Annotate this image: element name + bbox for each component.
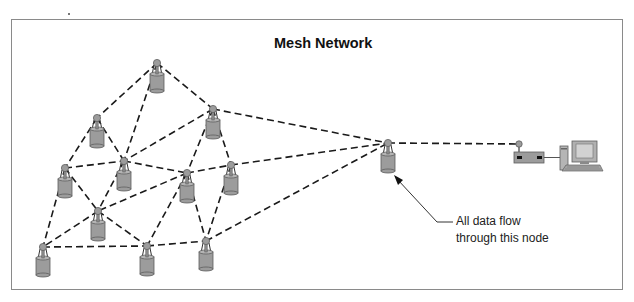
node-hub-icon <box>381 139 395 173</box>
node-n8-icon <box>91 207 105 241</box>
link-n9-n10 <box>43 246 147 247</box>
caption-line-1: All data flow <box>456 213 549 230</box>
link-n3-n5 <box>124 109 213 161</box>
link-n6-n7 <box>187 165 231 173</box>
node-n11-icon <box>199 237 213 271</box>
link-n7-hub <box>231 143 388 165</box>
node-n1-icon <box>150 59 164 93</box>
link-n1-n3 <box>157 63 213 109</box>
link-n6-n8 <box>98 173 187 211</box>
callout-arrow <box>394 175 453 222</box>
callout-caption: All data flow through this node <box>456 213 549 247</box>
link-n10-n11 <box>147 241 206 246</box>
computer-icon <box>560 141 603 171</box>
node-n2-icon <box>90 114 104 148</box>
link-hub-router <box>388 143 519 144</box>
diagram-title: Mesh Network <box>274 35 372 51</box>
router-icon <box>514 141 561 163</box>
links-layer <box>43 63 519 247</box>
node-n10-icon <box>140 242 154 276</box>
mesh-network-diagram: Mesh Network All data flow through this … <box>0 0 634 302</box>
link-n5-n6 <box>124 161 187 173</box>
link-n4-n5 <box>65 161 124 168</box>
node-n9-icon <box>36 243 50 277</box>
link-n3-hub <box>213 109 388 143</box>
node-n4-icon <box>58 164 72 198</box>
caption-line-2: through this node <box>456 230 549 247</box>
